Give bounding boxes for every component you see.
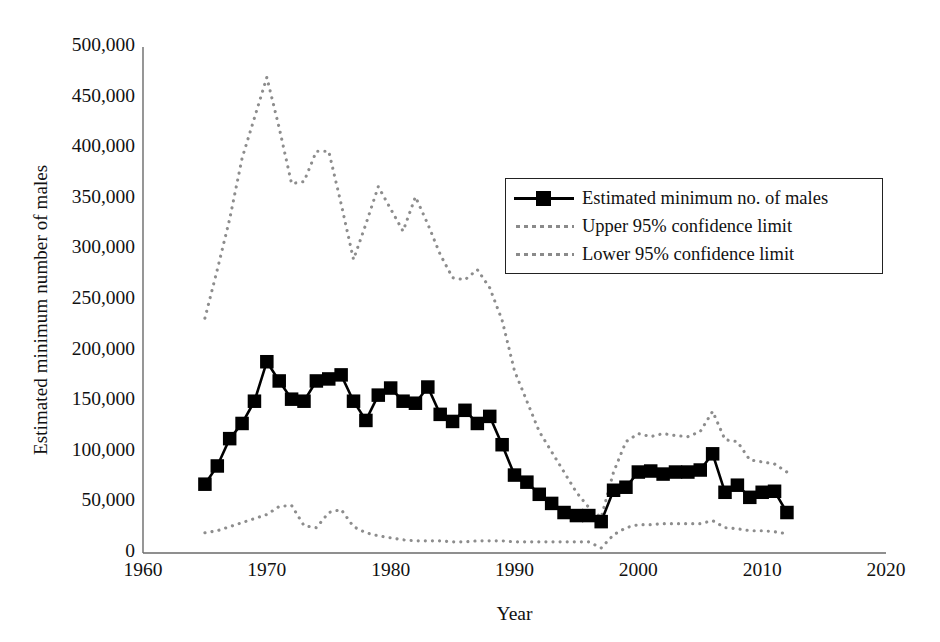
data-point-marker bbox=[594, 515, 608, 529]
legend-line-marker-icon bbox=[506, 184, 582, 212]
legend-item-label: Lower 95% confidence limit bbox=[582, 240, 794, 268]
data-point-marker bbox=[446, 415, 460, 429]
y-tick-label: 100,000 bbox=[72, 439, 135, 461]
series-estimated-minimum-markers bbox=[198, 355, 794, 528]
data-point-marker bbox=[223, 432, 237, 446]
data-point-marker bbox=[285, 392, 299, 406]
data-point-marker bbox=[359, 414, 373, 428]
data-point-marker bbox=[780, 506, 794, 520]
x-tick-label: 1960 bbox=[83, 559, 203, 581]
legend-item-label: Estimated minimum no. of males bbox=[582, 184, 828, 212]
data-point-marker bbox=[644, 464, 658, 478]
data-point-marker bbox=[409, 396, 423, 410]
y-tick-label: 50,000 bbox=[81, 489, 135, 511]
data-point-marker bbox=[235, 417, 249, 431]
x-tick-label: 1980 bbox=[331, 559, 451, 581]
data-point-marker bbox=[483, 410, 497, 424]
data-point-marker bbox=[743, 491, 757, 505]
y-tick-label: 500,000 bbox=[72, 34, 135, 56]
data-point-marker bbox=[471, 417, 485, 431]
data-point-marker bbox=[495, 438, 509, 452]
data-point-marker bbox=[731, 478, 745, 492]
data-point-marker bbox=[520, 475, 534, 489]
chart-container: Estimated minimum number of males 050,00… bbox=[0, 0, 940, 642]
y-tick-label: 350,000 bbox=[72, 186, 135, 208]
legend-item[interactable]: Estimated minimum no. of males bbox=[506, 184, 882, 212]
data-point-marker bbox=[322, 372, 336, 386]
data-point-marker bbox=[198, 477, 212, 491]
confidence-limit-polyline bbox=[205, 505, 787, 548]
data-point-marker bbox=[260, 355, 274, 369]
data-point-marker bbox=[533, 488, 547, 502]
data-point-marker bbox=[347, 394, 361, 408]
data-point-marker bbox=[619, 480, 633, 494]
data-point-marker bbox=[755, 486, 769, 500]
data-point-marker bbox=[694, 463, 708, 477]
data-point-marker bbox=[372, 388, 386, 402]
data-point-marker bbox=[669, 465, 683, 479]
y-tick-label: 250,000 bbox=[72, 287, 135, 309]
legend-dotted-line bbox=[514, 225, 574, 228]
data-point-marker bbox=[248, 394, 262, 408]
data-point-marker bbox=[508, 468, 522, 482]
legend-dotted-line-icon bbox=[506, 240, 582, 268]
data-point-marker bbox=[433, 408, 447, 422]
data-point-marker bbox=[421, 380, 435, 394]
data-point-marker bbox=[297, 394, 311, 408]
y-tick-label: 450,000 bbox=[72, 85, 135, 107]
y-tick-label: 200,000 bbox=[72, 338, 135, 360]
y-tick-label: 400,000 bbox=[72, 135, 135, 157]
y-tick-label: 300,000 bbox=[72, 236, 135, 258]
data-point-marker bbox=[582, 509, 596, 523]
data-point-marker bbox=[718, 486, 732, 500]
data-point-marker bbox=[607, 484, 621, 498]
legend-item[interactable]: Lower 95% confidence limit bbox=[506, 240, 882, 268]
x-tick-label: 2010 bbox=[702, 559, 822, 581]
x-axis-title: Year bbox=[415, 603, 615, 625]
x-tick-label: 2000 bbox=[578, 559, 698, 581]
confidence-limit-polyline bbox=[205, 77, 787, 517]
legend-item-label: Upper 95% confidence limit bbox=[582, 212, 792, 240]
x-tick-label: 1970 bbox=[207, 559, 327, 581]
legend-item[interactable]: Upper 95% confidence limit bbox=[506, 212, 882, 240]
data-point-marker bbox=[656, 467, 670, 481]
data-point-marker bbox=[768, 485, 782, 499]
data-point-marker bbox=[334, 368, 348, 382]
legend-square-marker bbox=[536, 191, 551, 206]
data-point-marker bbox=[706, 447, 720, 461]
data-point-marker bbox=[272, 374, 286, 388]
legend-dotted-line bbox=[514, 253, 574, 256]
data-point-marker bbox=[557, 506, 571, 520]
plot-area bbox=[0, 0, 940, 642]
data-point-marker bbox=[458, 404, 472, 418]
data-point-marker bbox=[396, 394, 410, 408]
legend: Estimated minimum no. of malesUpper 95% … bbox=[505, 178, 883, 274]
data-point-marker bbox=[632, 465, 646, 479]
series-upper-confidence-limit bbox=[205, 77, 787, 517]
y-axis-title: Estimated minimum number of males bbox=[30, 165, 52, 455]
x-tick-label: 2020 bbox=[826, 559, 940, 581]
x-tick-label: 1990 bbox=[455, 559, 575, 581]
series-lower-confidence-limit bbox=[205, 505, 787, 548]
y-tick-label: 150,000 bbox=[72, 388, 135, 410]
data-point-marker bbox=[681, 465, 695, 479]
data-point-marker bbox=[545, 497, 559, 511]
data-point-marker bbox=[570, 509, 584, 523]
data-point-marker bbox=[384, 381, 398, 395]
data-point-marker bbox=[211, 459, 225, 473]
data-point-marker bbox=[310, 374, 324, 388]
legend-dotted-line-icon bbox=[506, 212, 582, 240]
